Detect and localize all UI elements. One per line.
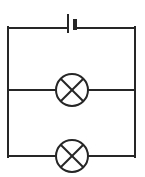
circuit-diagram-canvas [0, 0, 145, 177]
circuit-diagram-figure [0, 0, 145, 177]
lamp-icon-1 [56, 74, 88, 106]
battery-cell-symbol [68, 14, 75, 33]
lamp-icon-2 [56, 140, 88, 172]
